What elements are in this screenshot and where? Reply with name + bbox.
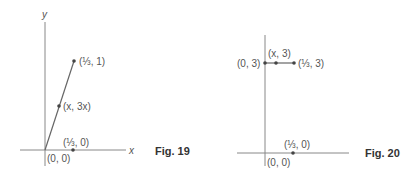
label-third-zero: (⅓, 0) [63, 137, 89, 148]
point-third-zero [291, 151, 295, 155]
label-origin: (0, 0) [267, 157, 290, 168]
point-third-zero [71, 148, 75, 152]
figure-caption: Fig. 19 [155, 145, 190, 157]
label-origin: (0, 0) [47, 153, 70, 164]
label-third-three: (⅓, 3) [298, 58, 324, 69]
point-x-3x [57, 104, 61, 108]
label-x-3x: (x, 3x) [63, 101, 91, 112]
label-x-three: (x, 3) [268, 48, 291, 59]
point-zero-three [263, 61, 267, 65]
y-axis-label: y [41, 9, 48, 20]
figure-caption: Fig. 20 [365, 147, 400, 159]
figure-20: (0, 3) (x, 3) (⅓, 3) (⅓, 0) (0, 0) Fig. … [237, 35, 400, 168]
point-third-three [292, 61, 296, 65]
point-x-three [274, 61, 278, 65]
label-zero-three: (0, 3) [237, 58, 260, 69]
label-third-zero: (⅓, 0) [284, 139, 310, 150]
figure-19: y x (⅓, 1) (x, 3x) (⅓, 0) (0, 0) Fig. 19 [20, 9, 190, 166]
label-third-one: (⅓, 1) [79, 56, 105, 67]
x-axis-label: x [128, 145, 135, 156]
point-third-one [72, 59, 76, 63]
diagram-canvas: y x (⅓, 1) (x, 3x) (⅓, 0) (0, 0) Fig. 19… [0, 0, 408, 179]
